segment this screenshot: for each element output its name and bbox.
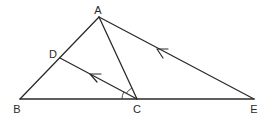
point-label-B: B [13, 103, 20, 115]
point-label-D: D [49, 48, 57, 60]
parallel-arrow-icon-DC [90, 74, 101, 82]
segment-AC [99, 17, 137, 99]
angle-arc-BCD [122, 92, 124, 99]
geometry-diagram: A B C D E [0, 0, 275, 124]
point-label-C: C [133, 103, 141, 115]
point-label-A: A [94, 4, 102, 16]
segment-DC [60, 58, 137, 99]
segment-AE [99, 17, 254, 99]
point-label-E: E [250, 103, 257, 115]
angle-arc-DCA [126, 88, 131, 93]
